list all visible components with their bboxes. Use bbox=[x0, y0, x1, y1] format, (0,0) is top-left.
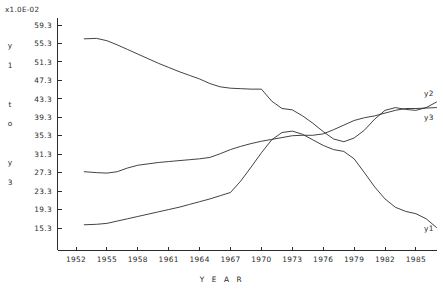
y-axis-tick-label: 55.3 bbox=[34, 39, 52, 48]
y-axis-tick-label: 59.3 bbox=[34, 21, 52, 30]
series-line-y1 bbox=[84, 131, 436, 227]
chart-canvas: x1.0E-02 y1toy3 59.355.351.347.343.339.3… bbox=[0, 0, 443, 289]
y-axis-unit-multiplier: x1.0E-02 bbox=[5, 5, 39, 14]
line-chart-figure: x1.0E-02 y1toy3 59.355.351.347.343.339.3… bbox=[0, 0, 443, 289]
y-axis-tick-labels: 59.355.351.347.343.339.335.331.327.323.3… bbox=[34, 21, 52, 233]
x-axis-tick-label: 1955 bbox=[97, 255, 117, 264]
y-axis-tick-label: 27.3 bbox=[34, 168, 52, 177]
x-axis-tick-label: 1964 bbox=[189, 255, 209, 264]
y-axis-title-char: t bbox=[9, 100, 12, 109]
y-axis-tick-label: 31.3 bbox=[34, 150, 52, 159]
y-axis-tick-label: 39.3 bbox=[34, 113, 52, 122]
x-axis-title: Y E A R bbox=[199, 275, 245, 284]
y-axis-tick-label: 47.3 bbox=[34, 76, 52, 85]
x-axis-tick-label: 1970 bbox=[251, 255, 271, 264]
x-axis-tick-labels: 1952195519581961196419671970197319761979… bbox=[66, 255, 426, 264]
y-axis-tick-label: 51.3 bbox=[34, 58, 52, 67]
y-axis-tick-label: 19.3 bbox=[34, 205, 52, 214]
y-axis-title: y1toy3 bbox=[8, 41, 13, 187]
y-axis-title-char: y bbox=[8, 41, 13, 50]
x-axis-tick-label: 1958 bbox=[128, 255, 148, 264]
y-axis-tick-label: 15.3 bbox=[34, 224, 52, 233]
series-label-y1: y1 bbox=[424, 224, 434, 233]
data-series-group bbox=[84, 38, 436, 227]
series-label-y3: y3 bbox=[424, 113, 434, 122]
y-axis-tick-label: 23.3 bbox=[34, 187, 52, 196]
y-axis-title-char: 3 bbox=[8, 178, 13, 187]
series-line-y3 bbox=[84, 108, 436, 174]
y-axis-title-char: y bbox=[8, 158, 13, 167]
x-axis-tick-label: 1982 bbox=[375, 255, 395, 264]
x-axis-tick-label: 1985 bbox=[406, 255, 426, 264]
x-axis-tick-label: 1979 bbox=[344, 255, 364, 264]
y-axis-title-char: 1 bbox=[8, 61, 13, 70]
series-end-labels: y1y2y3 bbox=[424, 89, 434, 233]
series-line-y2 bbox=[84, 38, 436, 141]
y-axis-tick-label: 35.3 bbox=[34, 131, 52, 140]
y-axis-title-char: o bbox=[8, 119, 13, 128]
x-axis-tick-label: 1961 bbox=[159, 255, 179, 264]
y-axis-tick-label: 43.3 bbox=[34, 95, 52, 104]
x-axis-tick-label: 1976 bbox=[313, 255, 333, 264]
x-axis-tick-label: 1967 bbox=[220, 255, 240, 264]
x-axis-tick-label: 1952 bbox=[66, 255, 86, 264]
y-axis-tick-marks bbox=[58, 25, 62, 228]
x-axis-tick-label: 1973 bbox=[282, 255, 302, 264]
series-label-y2: y2 bbox=[424, 89, 434, 98]
